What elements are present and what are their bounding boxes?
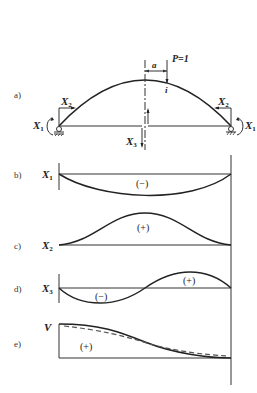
panel-c-x2-influence-line: c) X2 (+) [14, 213, 231, 253]
x3-label: X3 [125, 135, 137, 149]
x1-right-moment-arc [237, 118, 243, 135]
offset-label: a [152, 60, 157, 70]
panel-b-sign: (−) [136, 178, 148, 190]
panel-e-sign: (+) [80, 341, 92, 353]
x1-left-moment-arc [47, 118, 53, 135]
panel-e-v-influence-line: e) V (+) [14, 321, 231, 358]
panel-a-tied-arch: a) a P=1 i [14, 53, 256, 150]
left-pin-support [54, 127, 64, 137]
panel-d-sign-negative: (−) [95, 291, 107, 303]
panel-b-quantity: X1 [41, 168, 53, 182]
panel-c-quantity: X2 [41, 239, 53, 253]
x1-right-label: X1 [244, 119, 256, 133]
panel-d-label: d) [14, 284, 22, 294]
load-label: P=1 [172, 53, 189, 64]
panel-e-quantity: V [44, 321, 53, 333]
panel-a-label: a) [14, 90, 21, 100]
panel-d-quantity: X3 [41, 282, 53, 296]
panel-d-sign-positive: (+) [183, 275, 195, 287]
influence-line-figure: a) a P=1 i [0, 0, 257, 393]
panel-c-sign: (+) [137, 222, 149, 234]
x3-up-arrowhead-icon [147, 108, 150, 113]
load-point-label: i [165, 85, 168, 95]
x1-left-label: X1 [32, 119, 44, 133]
panel-d-x3-influence-line: d) X3 (−) (+) [14, 272, 231, 303]
right-pin-support [226, 127, 236, 136]
x3-down-arrowhead-icon [141, 143, 144, 148]
dimension-arrow-right-icon [163, 70, 167, 73]
panel-c-label: c) [14, 241, 21, 251]
panel-b-label: b) [14, 170, 22, 180]
panel-e-label: e) [14, 339, 21, 349]
x2-right-label: X2 [217, 95, 229, 109]
panel-b-x1-influence-line: b) X1 (−) [14, 163, 231, 195]
dimension-arrow-left-icon [145, 70, 149, 73]
x2-left-label: X2 [60, 95, 72, 109]
